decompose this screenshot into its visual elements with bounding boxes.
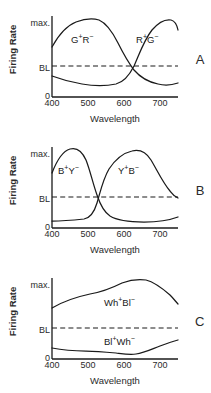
firing-rate-figure: Firing Rate max. BL 0 G+R− R+G− 400 500 … (0, 0, 211, 393)
x-tick-700-b: 700 (145, 229, 175, 239)
curve-label-white-plus-black-minus: Wh+Bl− (104, 297, 135, 308)
x-axis-label-a: Wavelength (52, 113, 178, 124)
plot-c (0, 262, 211, 393)
x-tick-700-a: 700 (145, 98, 175, 108)
x-tick-400-c: 400 (37, 360, 67, 370)
x-tick-600-c: 600 (109, 360, 139, 370)
plot-a (0, 0, 211, 131)
panel-letter-c: C (195, 314, 205, 329)
curve-label-yellow-plus-blue-minus: Y+B− (118, 165, 139, 176)
x-tick-600-b: 600 (109, 229, 139, 239)
panel-a: Firing Rate max. BL 0 G+R− R+G− 400 500 … (0, 0, 211, 131)
panel-b: Firing Rate max. BL 0 B+Y− Y+B− 400 500 … (0, 131, 211, 262)
curve-red-plus-green-minus (52, 20, 178, 86)
x-tick-700-c: 700 (145, 360, 175, 370)
curve-label-blue-plus-yellow-minus: B+Y− (58, 165, 79, 176)
curve-label-red-plus-green-minus: R+G− (136, 34, 158, 45)
curve-blue-plus-yellow-minus (52, 148, 178, 222)
plot-b (0, 131, 211, 262)
x-tick-500-c: 500 (73, 360, 103, 370)
x-tick-500-a: 500 (73, 98, 103, 108)
x-axis-label-c: Wavelength (52, 375, 178, 386)
x-axis-label-b: Wavelength (52, 244, 178, 255)
x-tick-400-b: 400 (37, 229, 67, 239)
x-tick-500-b: 500 (73, 229, 103, 239)
curve-green-plus-red-minus (52, 19, 178, 85)
curve-label-black-plus-white-minus: Bl+Wh− (104, 336, 135, 347)
curve-label-green-plus-red-minus: G+R− (71, 34, 93, 45)
x-tick-600-a: 600 (109, 98, 139, 108)
panel-c: Firing Rate max. BL 0 Wh+Bl− Bl+Wh− 400 … (0, 262, 211, 393)
curve-yellow-plus-blue-minus (52, 150, 178, 221)
panel-letter-b: B (196, 183, 205, 198)
panel-letter-a: A (196, 52, 205, 67)
x-tick-400-a: 400 (37, 98, 67, 108)
